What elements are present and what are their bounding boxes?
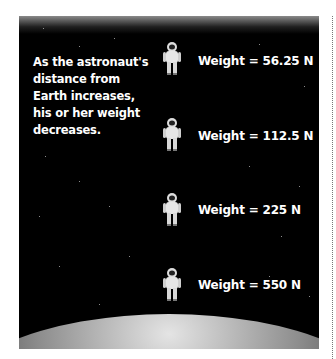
- caption-line: As the astronaut's: [33, 54, 163, 71]
- space-illustration: As the astronaut's distance from Earth i…: [19, 16, 319, 349]
- astronaut-icon: [161, 268, 183, 302]
- astronaut-icon: [161, 42, 183, 76]
- weight-label: Weight = 56.25 N: [198, 54, 313, 68]
- caption-line: his or her weight: [33, 105, 163, 122]
- weight-label: Weight = 225 N: [198, 203, 301, 217]
- caption-line: Earth increases,: [33, 88, 163, 105]
- weight-label: Weight = 112.5 N: [198, 129, 313, 143]
- astronaut-icon: [161, 118, 183, 152]
- figure-caption: As the astronaut's distance from Earth i…: [33, 54, 163, 139]
- weight-label: Weight = 550 N: [198, 278, 301, 292]
- top-fade: [19, 16, 319, 34]
- caption-line: distance from: [33, 71, 163, 88]
- dotted-margin-line: [332, 16, 333, 359]
- astronaut-icon: [161, 193, 183, 227]
- caption-line: decreases.: [33, 122, 163, 139]
- earth-surface: [19, 314, 319, 349]
